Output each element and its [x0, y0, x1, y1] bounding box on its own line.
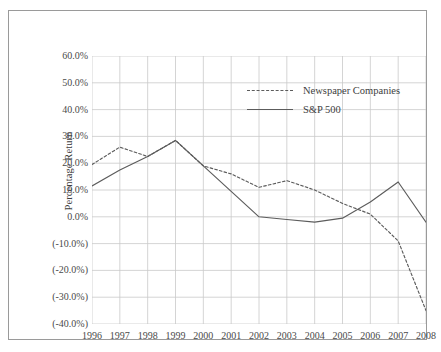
y-tick-label: (-40.0%) — [26, 319, 88, 329]
x-tick-label: 2008 — [406, 331, 441, 341]
legend-swatch-solid-icon — [247, 109, 293, 112]
legend-item-sp500[interactable]: S&P 500 — [247, 101, 427, 120]
y-tick-label: 20.0% — [26, 158, 88, 168]
plot-area: Newspaper Companies S&P 500 — [92, 56, 426, 324]
y-tick-label: (-30.0%) — [26, 292, 88, 302]
y-tick-label: 60.0% — [26, 51, 88, 61]
y-tick-label: 0.0% — [26, 212, 88, 222]
y-tick-label: 30.0% — [26, 131, 88, 141]
y-axis-tick-labels: 60.0%50.0%40.0%30.0%20.0%10.0%0.0%(-10.0… — [22, 11, 88, 341]
y-tick-label: (-20.0%) — [26, 265, 88, 275]
chart-frame: Percentage Return 60.0%50.0%40.0%30.0%20… — [8, 10, 427, 340]
figure-caption — [8, 343, 428, 352]
y-tick-label: 40.0% — [26, 105, 88, 115]
legend-item-newspaper-companies[interactable]: Newspaper Companies — [247, 82, 427, 101]
legend-swatch-dashed-icon — [247, 90, 293, 93]
y-tick-label: 50.0% — [26, 78, 88, 88]
y-tick-label: 10.0% — [26, 185, 88, 195]
legend-label-sp500: S&P 500 — [303, 101, 341, 118]
legend-label-newspaper-companies: Newspaper Companies — [303, 82, 400, 99]
legend: Newspaper Companies S&P 500 — [247, 82, 427, 120]
y-tick-label: (-10.0%) — [26, 239, 88, 249]
